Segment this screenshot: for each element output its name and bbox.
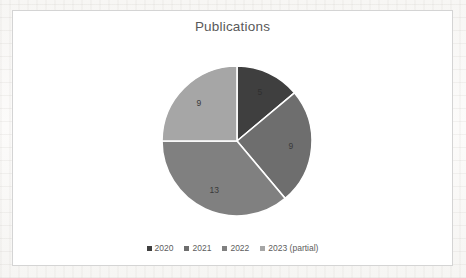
pie-data-label-2021: 9 xyxy=(288,141,293,151)
legend-swatch-icon xyxy=(260,246,265,251)
pie-chart-area: 59139 xyxy=(13,11,454,267)
chart-legend: 2020202120222023 (partial) xyxy=(13,243,452,253)
legend-swatch-icon xyxy=(147,246,152,251)
legend-item-label: 2020 xyxy=(155,243,174,253)
pie-data-label-2020: 5 xyxy=(257,87,262,97)
legend-item-2020[interactable]: 2020 xyxy=(147,243,174,253)
legend-swatch-icon xyxy=(222,246,227,251)
pie-data-label-2022: 13 xyxy=(209,185,219,195)
legend-item-2023-partial-[interactable]: 2023 (partial) xyxy=(260,243,318,253)
legend-item-label: 2023 (partial) xyxy=(268,243,318,253)
pie-data-label-2023-partial-: 9 xyxy=(196,98,201,108)
legend-item-2021[interactable]: 2021 xyxy=(184,243,211,253)
pie-chart-svg: 59139 xyxy=(13,11,454,267)
legend-item-label: 2022 xyxy=(230,243,249,253)
legend-item-2022[interactable]: 2022 xyxy=(222,243,249,253)
legend-swatch-icon xyxy=(184,246,189,251)
legend-item-label: 2021 xyxy=(192,243,211,253)
chart-frame: Publications 59139 2020202120222023 (par… xyxy=(12,10,453,266)
